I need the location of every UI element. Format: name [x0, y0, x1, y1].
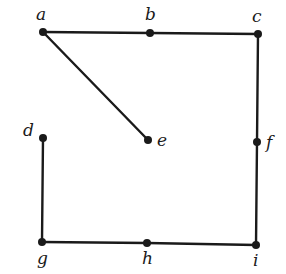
node-label-a: a — [36, 4, 46, 24]
node-h — [143, 239, 151, 247]
edge-f-i — [256, 142, 257, 245]
edge-h-i — [147, 243, 256, 245]
node-i — [252, 241, 260, 249]
node-label-h: h — [142, 248, 153, 268]
edge-a-b — [43, 32, 150, 33]
node-a — [39, 28, 47, 36]
edge-c-f — [257, 34, 258, 142]
graph-diagram: abcdefghi — [0, 0, 286, 274]
node-c — [254, 30, 262, 38]
node-label-g: g — [37, 248, 48, 268]
edge-b-c — [150, 33, 258, 34]
node-label-c: c — [252, 6, 262, 26]
node-d — [39, 134, 47, 142]
node-b — [146, 29, 154, 37]
node-label-f: f — [264, 132, 275, 152]
node-label-b: b — [145, 4, 156, 24]
node-g — [38, 238, 46, 246]
edge-d-g — [42, 138, 43, 242]
node-e — [144, 136, 152, 144]
edge-g-h — [42, 242, 147, 243]
edge-a-e — [43, 32, 148, 140]
node-label-e: e — [157, 130, 167, 150]
graph-svg: abcdefghi — [0, 0, 286, 274]
node-label-d: d — [23, 120, 34, 140]
node-f — [253, 138, 261, 146]
node-label-i: i — [253, 250, 258, 270]
